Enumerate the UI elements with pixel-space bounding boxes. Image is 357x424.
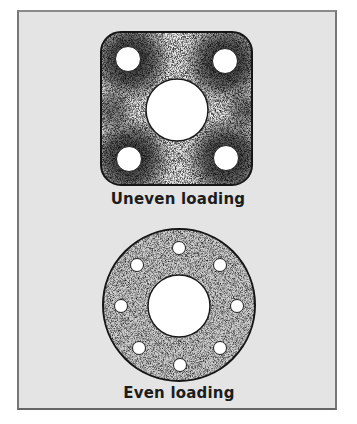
center-hole [146, 79, 208, 141]
center-hole [148, 275, 210, 337]
round-flange [100, 226, 260, 386]
caption-even-loading: Even loading [79, 384, 279, 402]
square-flange [88, 18, 269, 200]
diagram-canvas [0, 0, 357, 424]
caption-uneven-loading: Uneven loading [78, 190, 278, 208]
